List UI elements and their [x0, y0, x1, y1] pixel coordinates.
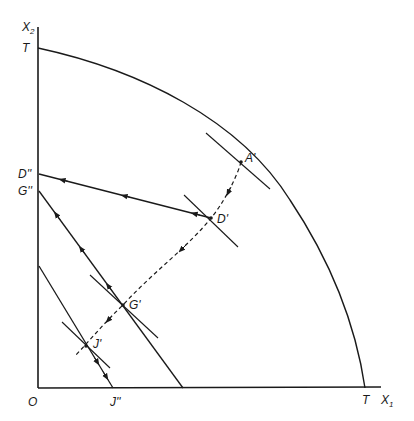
x-axis-label: X1	[380, 393, 393, 409]
frontier-y-intercept-label: T	[22, 41, 31, 55]
label-g-double: G''	[18, 184, 33, 198]
label-a: A'	[244, 151, 256, 165]
dashed-adjustment-path	[75, 162, 241, 356]
frontier-curve	[38, 48, 365, 388]
point-a	[239, 160, 243, 164]
label-d-double: D''	[18, 167, 32, 181]
arrow-icon	[103, 372, 107, 378]
arrow-icon	[108, 286, 112, 292]
point-j	[84, 344, 88, 348]
label-j: J'	[92, 337, 102, 351]
point-g	[121, 303, 125, 307]
label-g: G'	[129, 298, 141, 312]
arrow-icon	[56, 214, 60, 220]
label-j-double: J''	[109, 395, 121, 409]
label-d: D'	[217, 212, 229, 226]
arrow-icon	[181, 245, 186, 250]
arrow-icon	[94, 357, 98, 363]
origin-label: O	[28, 395, 37, 409]
x-axis	[38, 387, 381, 388]
arrow-icon	[228, 187, 231, 193]
arrow-icon	[108, 316, 112, 321]
ppf-diagram: X2 T D'' G'' O J'' T X1 A' D' G' J'	[0, 0, 414, 421]
point-d	[209, 216, 213, 220]
arrow-icon	[81, 249, 85, 255]
y-axis-label: X2	[21, 20, 35, 36]
frontier-x-intercept-label: T	[362, 393, 371, 407]
